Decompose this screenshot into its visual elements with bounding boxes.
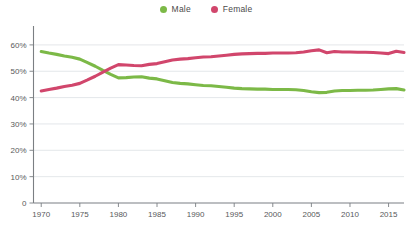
x-tick-label: 1975 (71, 210, 89, 219)
x-tick-label: 2015 (380, 210, 398, 219)
y-tick-label: 30% (10, 120, 26, 129)
y-tick-label: 60% (10, 41, 26, 50)
y-tick-label: 10% (10, 173, 26, 182)
x-tick-label: 1995 (225, 210, 243, 219)
chart-container: Male Female 010%20%30%40%50%60% 19701975… (0, 0, 412, 237)
x-tick-label: 1980 (110, 210, 128, 219)
y-tick-label: 50% (10, 67, 26, 76)
y-axis: 010%20%30%40%50%60% (10, 26, 33, 208)
x-tick-label: 2000 (264, 210, 282, 219)
chart-svg: 010%20%30%40%50%60% 19701975198019851990… (0, 0, 412, 237)
x-tick-label: 1970 (32, 210, 50, 219)
series-line-male (41, 51, 404, 92)
y-tick-label: 0 (22, 199, 27, 208)
x-axis: 1970197519801985199019952000200520102015 (32, 203, 404, 219)
series-line-female (41, 50, 404, 91)
x-tick-label: 1990 (187, 210, 205, 219)
x-tick-label: 2005 (302, 210, 320, 219)
x-tick-label: 2010 (341, 210, 359, 219)
y-tick-label: 20% (10, 146, 26, 155)
y-tick-label: 40% (10, 94, 26, 103)
x-tick-label: 1985 (148, 210, 166, 219)
plot-area: 010%20%30%40%50%60% 19701975198019851990… (0, 0, 412, 237)
